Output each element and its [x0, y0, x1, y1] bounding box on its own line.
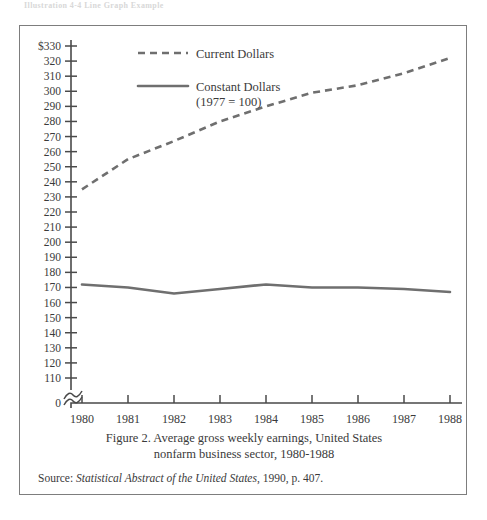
y-tick-label-310: 310	[44, 70, 62, 82]
x-tick-label-1984: 1984	[254, 412, 278, 426]
y-tick-label-170: 170	[44, 281, 62, 293]
y-tick-label-160: 160	[44, 297, 62, 309]
y-tick-label-150: 150	[44, 312, 62, 324]
y-tick-label-190: 190	[44, 251, 62, 263]
x-tick-label-1988: 1988	[438, 412, 462, 426]
y-tick-label-270: 270	[44, 131, 62, 143]
chart-plot-area: $330320310300290280270260250240230220210…	[20, 26, 468, 426]
x-tick-label-1982: 1982	[162, 412, 186, 426]
x-tick-label-1981: 1981	[116, 412, 140, 426]
x-axis-line	[71, 403, 462, 408]
y-tick-label-210: 210	[44, 221, 62, 233]
y-tick-label-120: 120	[44, 357, 62, 369]
y-axis-break-icon	[64, 391, 82, 399]
illustration-label: Illustration 4-4 Line Graph Example	[24, 1, 164, 10]
y-tick-label-220: 220	[44, 206, 62, 218]
y-tick-label-240: 240	[44, 176, 62, 188]
legend-note-base-year: (1977 = 100)	[196, 95, 261, 109]
series-line-current-dollars	[82, 58, 450, 189]
y-tick-label-110: 110	[44, 372, 61, 384]
source-title: Statistical Abstract of the United State…	[76, 472, 257, 484]
y-tick-label-140: 140	[44, 327, 62, 339]
source-prefix: Source:	[38, 472, 73, 484]
y-tick-label-0: 0	[55, 397, 61, 409]
y-tick-label-290: 290	[44, 100, 62, 112]
y-tick-label-320: 320	[44, 55, 62, 67]
legend-label-constant-dollars: Constant Dollars	[196, 80, 281, 94]
legend-label-current-dollars: Current Dollars	[196, 47, 274, 61]
y-tick-label-230: 230	[44, 191, 62, 203]
page-header-strip: Illustration 4-4 Line Graph Example	[0, 0, 487, 16]
x-tick-label-1986: 1986	[346, 412, 370, 426]
y-tick-label-300: 300	[44, 85, 62, 97]
x-tick-label-1987: 1987	[392, 412, 416, 426]
y-tick-label-180: 180	[44, 266, 62, 278]
y-tick-label-130: 130	[44, 342, 62, 354]
line-chart: $330320310300290280270260250240230220210…	[20, 26, 468, 426]
y-tick-label-200: 200	[44, 236, 62, 248]
source-suffix: , 1990, p. 407.	[257, 472, 323, 484]
series-line-constant-dollars	[82, 284, 450, 293]
figure-frame: $330320310300290280270260250240230220210…	[19, 25, 467, 495]
y-tick-label-280: 280	[44, 115, 62, 127]
x-tick-label-1980: 1980	[70, 412, 94, 426]
x-tick-label-1983: 1983	[208, 412, 232, 426]
y-tick-label-250: 250	[44, 161, 62, 173]
caption-line-1: Figure 2. Average gross weekly earnings,…	[20, 430, 468, 446]
y-tick-label-330: $330	[38, 40, 61, 52]
figure-caption: Figure 2. Average gross weekly earnings,…	[20, 430, 468, 462]
caption-line-2: nonfarm business sector, 1980-1988	[20, 446, 468, 462]
x-tick-label-1985: 1985	[300, 412, 324, 426]
source-note: Source: Statistical Abstract of the Unit…	[38, 472, 458, 484]
y-tick-label-260: 260	[44, 146, 62, 158]
